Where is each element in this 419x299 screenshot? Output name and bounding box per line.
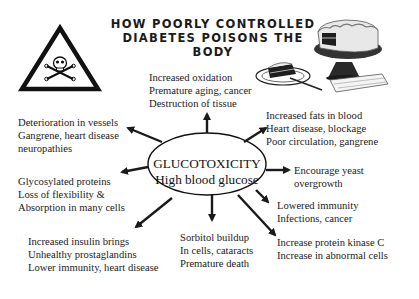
- center-label-line-2: High blood glucose: [146, 172, 268, 188]
- effect-line: Premature aging, cancer: [149, 84, 252, 97]
- effect-top: Increased oxidation Premature aging, can…: [149, 71, 252, 111]
- effect-line: Increase in abnormal cells: [277, 249, 388, 262]
- effect-line: Increased fats in blood: [266, 109, 378, 122]
- effect-line: Increase protein kinase C: [277, 236, 388, 249]
- effect-line: overgrowth: [294, 177, 364, 190]
- skull-warning-icon: [22, 28, 98, 89]
- effect-line: In cells, cataracts: [180, 244, 253, 257]
- title-line-2: DIABETES POISONS THE BODY: [108, 31, 318, 59]
- effect-line: Increased insulin brings: [28, 235, 159, 248]
- arrow-bottom-right: [238, 195, 275, 235]
- arrow-left: [122, 167, 148, 172]
- effect-line: Heart disease, blockage: [266, 122, 378, 135]
- effect-line: Lower immunity, heart disease: [28, 261, 159, 274]
- effect-line: Increased oxidation: [149, 71, 252, 84]
- effect-lower-right: Lowered immunity Infections, cancer: [277, 199, 359, 225]
- effect-left: Glycosylated proteins Loss of flexibilit…: [18, 175, 125, 215]
- effect-lower-left: Increased insulin brings Unhealthy prost…: [28, 235, 159, 275]
- effect-line: Infections, cancer: [277, 212, 359, 225]
- effect-bottom-right: Increase protein kinase C Increase in ab…: [277, 236, 388, 262]
- title-line-1: HOW POORLY CONTROLLED: [108, 17, 318, 31]
- diagram-title: HOW POORLY CONTROLLED DIABETES POISONS T…: [108, 17, 318, 59]
- effect-line: Sorbitol buildup: [180, 231, 253, 244]
- center-label-line-1: GLUCOTOXICITY: [146, 156, 268, 172]
- arrow-upper-right: [244, 128, 266, 142]
- effect-line: Unhealthy prostaglandins: [28, 248, 159, 261]
- center-label: GLUCOTOXICITY High blood glucose: [146, 156, 268, 188]
- effect-line: Absorption in many cells: [18, 201, 125, 214]
- arrow-lower-left: [136, 198, 172, 227]
- effect-line: Deterioration in vessels: [18, 116, 119, 129]
- effect-line: Destruction of tissue: [149, 97, 252, 110]
- effect-line: Loss of flexibility &: [18, 188, 125, 201]
- arrow-upper-left: [128, 128, 162, 142]
- effect-bottom: Sorbitol buildup In cells, cataracts Pre…: [180, 231, 253, 271]
- effect-upper-left: Deterioration in vessels Gangrene, heart…: [18, 116, 119, 156]
- effect-line: Poor circulation, gangrene: [266, 135, 378, 148]
- arrow-lower-right: [256, 190, 268, 202]
- effect-upper-right: Increased fats in blood Heart disease, b…: [266, 109, 378, 149]
- glucotoxicity-diagram: HOW POORLY CONTROLLED DIABETES POISONS T…: [0, 0, 419, 299]
- effect-line: Glycosylated proteins: [18, 175, 125, 188]
- effect-line: neuropathies: [18, 142, 119, 155]
- effect-line: Lowered immunity: [277, 199, 359, 212]
- effect-right: Encourage yeast overgrowth: [294, 164, 364, 190]
- effect-line: Premature death: [180, 257, 253, 270]
- effect-line: Encourage yeast: [294, 164, 364, 177]
- effect-line: Gangrene, heart disease: [18, 129, 119, 142]
